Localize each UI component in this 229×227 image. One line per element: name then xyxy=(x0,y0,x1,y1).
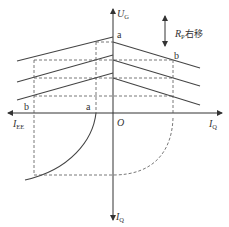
dashed-guides xyxy=(34,42,173,175)
label-iee: IEE xyxy=(12,118,24,130)
axes xyxy=(8,9,222,220)
characteristic-lines xyxy=(17,37,200,180)
point-a-top: a xyxy=(117,29,122,40)
label-iq-right: IQ xyxy=(208,118,217,130)
label-iq-down: IQ xyxy=(115,211,124,223)
label-origin: O xyxy=(117,117,124,128)
load-line-diagram: UG IQ IEE IQ O a b b a RP右移 xyxy=(0,0,229,227)
label-ug: UG xyxy=(117,8,129,20)
point-b-right: b xyxy=(174,50,179,61)
rp-shift-annotation: RP右移 xyxy=(174,28,203,40)
point-a-left: a xyxy=(86,101,91,112)
point-b-left: b xyxy=(24,101,29,112)
solid-transfer-curve xyxy=(25,113,96,180)
